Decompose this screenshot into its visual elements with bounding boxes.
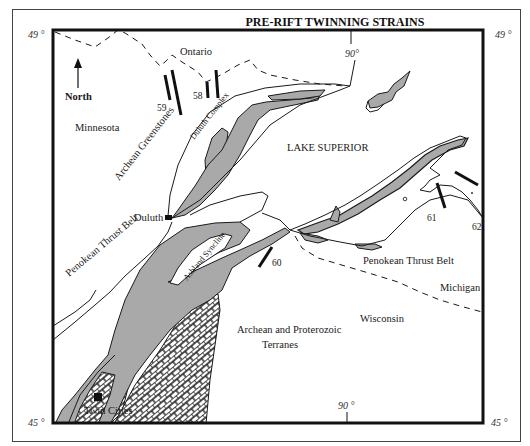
michigan-wisconsin-boundary-dashed bbox=[295, 236, 482, 312]
label-duluth: Duluth bbox=[134, 212, 164, 223]
north-label: North bbox=[65, 91, 92, 102]
label-penokean-west: Penokean Thrust Belt bbox=[63, 212, 140, 279]
label-terranes-line2: Terranes bbox=[262, 339, 298, 350]
site-label-58: 58 bbox=[193, 91, 203, 101]
label-lake-superior: LAKE SUPERIOR bbox=[287, 142, 368, 153]
twin-cities-marker bbox=[94, 393, 102, 401]
lat-45-left: 45 ° bbox=[28, 417, 45, 428]
label-terranes-line1: Archean and Proterozoic bbox=[237, 324, 342, 335]
north-arrow-icon bbox=[74, 58, 82, 88]
lake-inner-outline-2 bbox=[262, 213, 290, 230]
lon-90-top: 90° bbox=[345, 48, 359, 59]
lat-45-right: 45 ° bbox=[491, 417, 508, 428]
label-wisconsin: Wisconsin bbox=[360, 313, 405, 324]
site-label-60: 60 bbox=[272, 258, 282, 268]
label-michigan: Michigan bbox=[440, 282, 481, 293]
site-dot-a bbox=[403, 197, 407, 201]
intl-boundary-dashed bbox=[55, 30, 345, 86]
map-title: PRE-RIFT TWINNING STRAINS bbox=[246, 15, 425, 29]
mesabi-boundary bbox=[53, 290, 96, 326]
lat-49-right: 49 ° bbox=[495, 29, 512, 40]
site-label-59: 59 bbox=[157, 103, 167, 113]
isle-royale bbox=[368, 71, 410, 108]
south-shore-gray-lens-2 bbox=[355, 244, 382, 250]
site-dot-b bbox=[471, 192, 473, 194]
site-label-61: 61 bbox=[427, 213, 437, 223]
site-label-62: 62 bbox=[472, 222, 482, 232]
duluth-marker bbox=[165, 215, 172, 220]
geologic-map: PRE-RIFT TWINNING STRAINS bbox=[0, 0, 530, 446]
label-twin-cities: Twin Cities bbox=[84, 405, 133, 416]
label-archean-greenstones: Archean Greenstones bbox=[112, 104, 176, 182]
label-penokean-east: Penokean Thrust Belt bbox=[363, 255, 454, 266]
duluth-complex-gray-main bbox=[172, 94, 320, 218]
label-minnesota: Minnesota bbox=[75, 122, 120, 133]
lat-49-left: 49 ° bbox=[28, 29, 45, 40]
outer-border bbox=[13, 10, 521, 442]
lon-90-bottom: 90 ° bbox=[338, 400, 355, 411]
label-ontario: Ontario bbox=[180, 46, 212, 57]
